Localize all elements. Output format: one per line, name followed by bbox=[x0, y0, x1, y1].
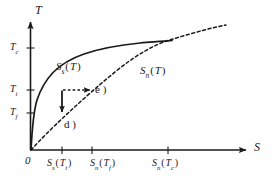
subscript-c: c bbox=[16, 48, 19, 55]
y-tick-label-Tf: Tf bbox=[10, 107, 17, 120]
paren-close: ) bbox=[67, 157, 71, 168]
subscript-i: i bbox=[65, 164, 67, 171]
x-tick-label-SnTf: Sn ( Tf ) bbox=[90, 158, 115, 171]
subscript-n: n bbox=[157, 164, 160, 171]
x-tick-label-SsTi: Ss ( Ti ) bbox=[47, 158, 71, 171]
subscript-n: n bbox=[146, 71, 150, 80]
subscript-i: i bbox=[16, 90, 18, 97]
y-tick-label-Tc: Tc bbox=[10, 42, 19, 55]
subscript-s: s bbox=[62, 67, 65, 76]
annotation-label-d: d ) bbox=[64, 119, 76, 130]
curve-label-Ss: Ss ( T ) bbox=[56, 61, 81, 75]
x-tick-label-SnTc: Sn ( Tc ) bbox=[152, 158, 178, 171]
entropy-temperature-diagram bbox=[0, 0, 278, 186]
paren-close: ) bbox=[174, 157, 178, 168]
curve-label-Sn: Sn ( T ) bbox=[140, 65, 165, 79]
figure-container: T S 0 Tc Ti Tf Ss ( Ti ) Sn ( Tf ) Sn ( … bbox=[0, 0, 278, 186]
subscript-f: f bbox=[109, 164, 111, 171]
paren-close: ) bbox=[76, 60, 81, 72]
paren-close: ) bbox=[111, 157, 115, 168]
origin-label: 0 bbox=[25, 155, 31, 166]
subscript-c: c bbox=[171, 164, 174, 171]
subscript-f: f bbox=[16, 113, 18, 120]
subscript-s: s bbox=[52, 164, 55, 171]
curve-Ss-solid bbox=[31, 41, 172, 151]
y-axis-label: T bbox=[35, 4, 42, 16]
paren-close: ) bbox=[161, 64, 166, 76]
annotation-label-e: e ) bbox=[95, 84, 106, 95]
subscript-n: n bbox=[95, 164, 98, 171]
x-axis-label: S bbox=[254, 141, 260, 153]
y-tick-label-Ti: Ti bbox=[10, 84, 17, 97]
